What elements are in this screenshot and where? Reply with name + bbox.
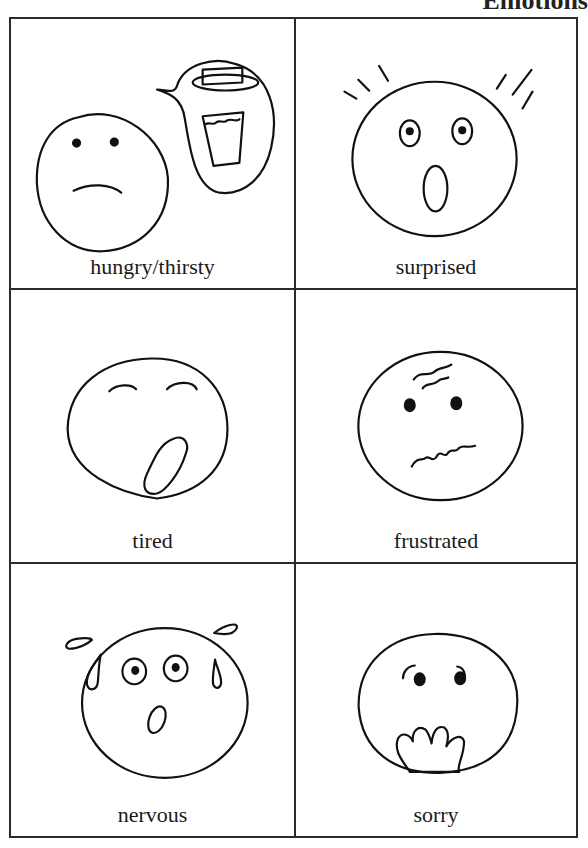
- emotion-label: hungry/thirsty: [11, 254, 294, 280]
- emotion-card-frustrated: frustrated: [296, 290, 576, 564]
- emotion-label: surprised: [296, 254, 576, 280]
- emotion-card-surprised: surprised: [296, 19, 576, 290]
- tired-face-icon: [11, 290, 294, 562]
- emotion-label: sorry: [296, 802, 576, 828]
- emotion-card-tired: tired: [11, 290, 296, 564]
- emotion-label: frustrated: [296, 528, 576, 554]
- hungry-thirsty-face-icon: [11, 19, 294, 288]
- emotion-label: nervous: [11, 802, 294, 828]
- sorry-face-icon: [296, 564, 576, 836]
- surprised-face-icon: [296, 19, 576, 288]
- page-heading: Emotions: [483, 0, 588, 16]
- emotion-card-grid: hungry/thirsty surprised tired: [9, 17, 578, 838]
- nervous-face-icon: [11, 564, 294, 836]
- emotion-card-sorry: sorry: [296, 564, 576, 836]
- emotion-label: tired: [11, 528, 294, 554]
- frustrated-face-icon: [296, 290, 576, 562]
- emotion-card-nervous: nervous: [11, 564, 296, 836]
- emotion-card-hungry-thirsty: hungry/thirsty: [11, 19, 296, 290]
